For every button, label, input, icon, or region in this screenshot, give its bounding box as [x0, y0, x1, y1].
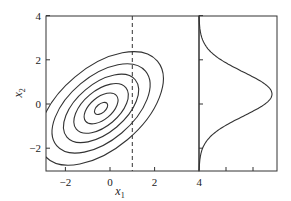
contour-group	[18, 30, 183, 187]
x-axis-label: x1	[114, 184, 124, 200]
contour-panel-frame	[46, 16, 199, 171]
contour-line	[51, 61, 151, 156]
contour-line	[65, 74, 137, 143]
y-tick-label: 0	[36, 98, 42, 110]
x-tick-label: 0	[107, 176, 113, 188]
marginal-density-curve	[199, 16, 272, 171]
y-tick-label: 4	[36, 10, 42, 22]
x-tick-label: 2	[152, 176, 158, 188]
y-tick-label: 2	[36, 54, 42, 66]
marginal-panel-frame	[199, 16, 277, 171]
contour-line	[18, 30, 183, 187]
chart-figure: −2024420−2x1x2 x	[0, 0, 291, 201]
chart-svg: −2024420−2x1x2	[0, 0, 291, 201]
contour-line	[36, 47, 166, 171]
x-tick-label: −2	[60, 176, 72, 188]
contour-line	[92, 100, 110, 117]
contour-line	[79, 87, 124, 130]
x-tick-label: 4	[196, 176, 202, 188]
y-axis-label: x2	[11, 88, 27, 98]
y-tick-label: −2	[29, 142, 41, 154]
